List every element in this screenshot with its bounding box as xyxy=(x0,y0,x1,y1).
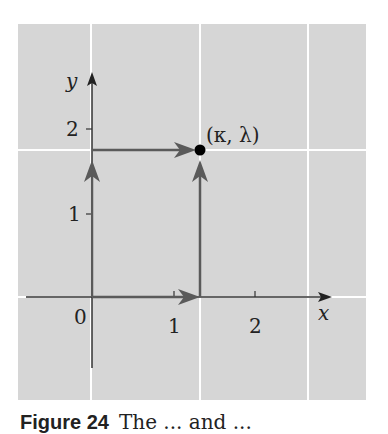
caption-text: The ... and ... xyxy=(119,410,252,434)
y-axis-label: y xyxy=(65,69,78,93)
point-label: (κ, λ) xyxy=(206,123,260,147)
caption-label: Figure 24 xyxy=(20,411,109,433)
origin-label: 0 xyxy=(74,305,87,329)
x-tick-label-2: 2 xyxy=(249,314,262,338)
y-tick-label-1: 1 xyxy=(68,202,81,226)
x-axis-label: x xyxy=(318,301,329,325)
x-tick-label-1: 1 xyxy=(168,314,181,338)
y-tick-label-2: 2 xyxy=(66,117,79,141)
point-kappa-lambda xyxy=(195,145,206,156)
figure-caption: Figure 24The ... and ... xyxy=(20,410,252,434)
